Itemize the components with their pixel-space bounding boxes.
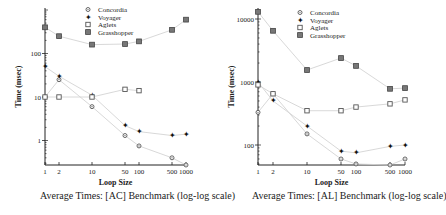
aglets-marker: [388, 102, 392, 106]
legend-voyager-marker: ✦: [85, 13, 92, 22]
x-tick-label: 100: [351, 168, 362, 176]
concordia-marker: [339, 157, 343, 161]
voyager-marker: ✦: [122, 121, 129, 130]
legend-concordia-marker: [298, 11, 302, 15]
y-axis-label: Time (msec): [227, 65, 236, 107]
y-tick-label: 10000: [237, 16, 255, 24]
chart-al: 1001000100001210501005001000Loop SizeTim…: [215, 0, 431, 215]
chart-ac: 1101001210501005001000Loop SizeTime (mse…: [0, 0, 215, 215]
series-aglets: [256, 83, 407, 113]
grasshopper-marker: [137, 39, 142, 44]
concordia-marker: [123, 134, 127, 138]
x-tick-label: 1000: [179, 168, 194, 176]
grasshopper-marker: [123, 42, 128, 47]
aglets-marker: [339, 109, 343, 113]
concordia-marker: [170, 156, 174, 160]
legend-concordia-marker: [86, 8, 90, 12]
series-voyager: ✦✦✦✦✦✦✦: [255, 78, 409, 158]
y-axis-label: Time (msec): [14, 65, 23, 107]
concordia-marker: [305, 132, 309, 136]
concordia-marker: [256, 110, 260, 114]
grasshopper-marker: [184, 17, 189, 22]
chart-ac-caption: Average Times: [AC] Benchmark (log-log s…: [40, 190, 235, 201]
aglets-marker: [354, 105, 358, 109]
voyager-marker: ✦: [270, 96, 277, 105]
svg-text:✦: ✦: [304, 122, 311, 131]
aglets-marker: [403, 98, 407, 102]
x-tick-label: 10: [304, 168, 312, 176]
legend-grasshopper-marker: [86, 30, 91, 35]
voyager-marker: ✦: [387, 142, 394, 151]
legend-voyager-marker: ✦: [297, 16, 304, 25]
aglets-marker: [271, 92, 275, 96]
legend-item-grasshopper: Grasshopper: [298, 32, 346, 40]
svg-text:✦: ✦: [136, 127, 143, 136]
voyager-marker: ✦: [169, 131, 176, 140]
svg-text:✦: ✦: [297, 16, 304, 25]
svg-text:✦: ✦: [85, 13, 92, 22]
y-tick-label: 10: [34, 94, 42, 102]
aglets-marker: [123, 87, 127, 91]
x-tick-label: 2: [271, 168, 275, 176]
svg-text:✦: ✦: [122, 121, 129, 130]
svg-text:✦: ✦: [338, 147, 345, 156]
aglets-marker: [43, 95, 47, 99]
aglets-marker: [305, 109, 309, 113]
grasshopper-marker: [90, 42, 95, 47]
grasshopper-marker: [170, 27, 175, 32]
grasshopper-marker: [354, 64, 359, 69]
legend: Concordia✦VoyagerAgletsGrasshopper: [297, 9, 347, 40]
x-tick-label: 100: [134, 168, 145, 176]
svg-text:✦: ✦: [387, 142, 394, 151]
svg-text:✦: ✦: [270, 96, 277, 105]
concordia-marker: [184, 163, 188, 167]
grasshopper-marker: [271, 28, 276, 33]
grasshopper-marker: [305, 68, 310, 73]
svg-text:✦: ✦: [169, 131, 176, 140]
voyager-marker: ✦: [56, 72, 63, 81]
legend-aglets-marker: [298, 25, 302, 29]
grasshopper-marker: [43, 25, 48, 30]
grasshopper-marker: [403, 86, 408, 91]
x-tick-label: 500: [167, 168, 178, 176]
x-tick-label: 1000: [398, 168, 413, 176]
svg-text:✦: ✦: [402, 141, 409, 150]
aglets-marker: [57, 95, 61, 99]
concordia-marker: [403, 157, 407, 161]
voyager-marker: ✦: [42, 62, 49, 71]
y-tick-label: 100: [244, 142, 255, 150]
x-tick-label: 50: [122, 168, 130, 176]
voyager-marker: ✦: [136, 127, 143, 136]
x-tick-label: 1: [256, 168, 260, 176]
x-tick-label: 1: [43, 168, 47, 176]
x-tick-label: 10: [89, 168, 97, 176]
grasshopper-marker: [339, 56, 344, 61]
concordia-marker: [354, 162, 358, 166]
y-tick-label: 100: [31, 50, 42, 58]
x-tick-label: 50: [338, 168, 346, 176]
voyager-marker: ✦: [304, 122, 311, 131]
concordia-marker: [388, 163, 392, 167]
concordia-marker: [137, 144, 141, 148]
series-voyager: ✦✦✦✦✦✦✦: [42, 62, 190, 140]
grasshopper-marker: [57, 34, 62, 39]
y-tick-label: 1: [38, 137, 42, 145]
legend-item-grasshopper: Grasshopper: [86, 29, 134, 37]
legend-grasshopper-marker: [298, 33, 303, 38]
x-tick-label: 500: [385, 168, 396, 176]
voyager-marker: ✦: [183, 130, 190, 139]
grasshopper-marker: [256, 9, 261, 14]
chart-al-plot: 1001000100001210501005001000Loop SizeTim…: [215, 0, 431, 215]
svg-text:✦: ✦: [353, 148, 360, 157]
svg-text:✦: ✦: [56, 72, 63, 81]
x-axis-label: Loop Size: [99, 178, 133, 187]
concordia-marker: [90, 105, 94, 109]
aglets-marker: [137, 88, 141, 92]
series-concordia: [256, 92, 407, 167]
x-axis-label: Loop Size: [315, 178, 349, 187]
voyager-marker: ✦: [338, 147, 345, 156]
voyager-marker: ✦: [402, 141, 409, 150]
legend: Concordia✦VoyagerAgletsGrasshopper: [85, 6, 135, 37]
svg-text:Grasshopper: Grasshopper: [98, 29, 134, 37]
legend-aglets-marker: [86, 22, 90, 26]
